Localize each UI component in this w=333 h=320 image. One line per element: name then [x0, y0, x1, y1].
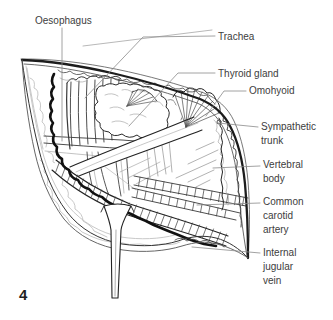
label-vertebral-body: Vertebral body: [263, 158, 313, 186]
label-omohyoid: Omohyoid: [249, 84, 295, 98]
label-internal-jugular-vein: Internal jugular vein: [263, 246, 309, 288]
leader-internal-jugular: [192, 247, 260, 253]
figure-number: 4: [19, 286, 27, 303]
label-oesophagus: Oesophagus: [35, 14, 92, 28]
label-trachea: Trachea: [218, 30, 254, 44]
label-common-carotid-artery: Common carotid artery: [263, 195, 311, 237]
label-sympathetic-trunk: Sympathetic trunk: [261, 120, 323, 148]
anatomy-figure-panel: Oesophagus Trachea Thyroid gland Omohyoi…: [0, 0, 333, 320]
leader-sympathetic-trunk: [218, 123, 258, 127]
skin-crease-line: [83, 30, 212, 46]
label-thyroid-gland: Thyroid gland: [218, 67, 279, 81]
